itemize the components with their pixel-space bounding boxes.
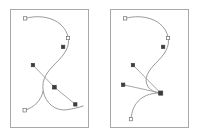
spoke-upper [133,65,161,93]
node-top-left[interactable] [123,17,126,20]
node-mid-right[interactable] [61,45,64,48]
panel-left-nodes [23,17,77,112]
node-junction[interactable] [159,91,163,95]
panel-right-polylines [123,65,161,93]
lower-tail [25,91,44,111]
node-left-lower[interactable] [122,83,125,86]
node-mid-left[interactable] [131,63,134,66]
node-mid-left[interactable] [31,63,34,66]
node-upper-right[interactable] [66,36,69,39]
panel-left-polylines [33,65,75,104]
node-bottom-right[interactable] [74,103,77,106]
node-bottom-left[interactable] [23,109,26,112]
node-center[interactable] [53,85,57,89]
node-bottom-stem[interactable] [129,117,132,120]
panel-right-curves [125,17,168,119]
node-upper-right[interactable] [166,36,169,39]
node-mid-right[interactable] [161,45,164,48]
node-top-left[interactable] [23,17,26,20]
panel-right [110,9,189,128]
panel-left [10,9,89,128]
figure-container [0,0,199,137]
panel-right-nodes [122,17,170,121]
spoke-lower [123,85,161,93]
control-polygon-diagonal [33,65,75,104]
s-curve [125,17,168,93]
panel-right-canvas [111,10,188,127]
lower-hook [131,93,161,119]
panel-left-canvas [11,10,88,127]
